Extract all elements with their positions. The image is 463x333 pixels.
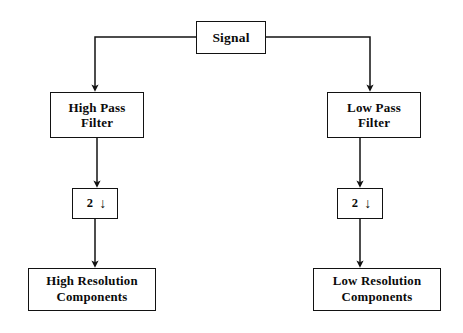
node-signal: Signal xyxy=(196,21,266,54)
node-low-pass-filter-label: Low Pass Filter xyxy=(344,100,404,131)
edge-signal-to-high-pass xyxy=(95,37,196,88)
downsample-arrow-icon: ↓ xyxy=(364,197,371,211)
edge-signal-to-low-pass xyxy=(266,37,370,88)
node-signal-label: Signal xyxy=(209,30,252,46)
node-downsampler-right: 2 ↓ xyxy=(337,188,383,219)
node-low-pass-filter: Low Pass Filter xyxy=(327,92,421,138)
node-high-resolution-components: High Resolution Components xyxy=(28,268,156,311)
node-high-pass-filter: High Pass Filter xyxy=(50,92,144,138)
node-downsampler-right-factor: 2 xyxy=(349,196,361,211)
downsample-arrow-icon: ↓ xyxy=(99,197,106,211)
node-low-resolution-components-label: Low Resolution Components xyxy=(330,274,424,304)
block-diagram: Signal High Pass Filter Low Pass Filter … xyxy=(0,0,463,333)
node-high-resolution-components-label: High Resolution Components xyxy=(43,274,141,304)
node-downsampler-left: 2 ↓ xyxy=(72,188,118,219)
node-downsampler-left-factor: 2 xyxy=(84,196,96,211)
node-high-pass-filter-label: High Pass Filter xyxy=(65,100,128,131)
node-low-resolution-components: Low Resolution Components xyxy=(313,268,441,311)
